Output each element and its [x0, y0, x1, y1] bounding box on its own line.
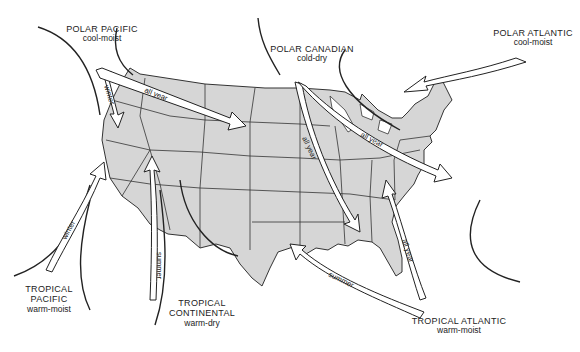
air-mass-desc: warm-dry	[162, 319, 242, 329]
air-mass-desc: cool-moist	[52, 34, 152, 44]
air-mass-desc: warm-moist	[14, 305, 84, 315]
arrow-tropical-pacific-winter	[46, 162, 106, 272]
label-ta-all-year: all year	[400, 238, 416, 264]
air-mass-desc: cold-dry	[262, 54, 362, 64]
arrow-polar-atlantic	[404, 58, 526, 92]
air-mass-desc: cool-moist	[488, 38, 578, 48]
air-mass-desc: warm-moist	[404, 326, 514, 336]
label-polar-pacific: POLAR PACIFIC cool-moist	[52, 24, 152, 44]
arrow-tropical-atlantic-summer	[290, 244, 424, 318]
air-mass-name-1: TROPICAL	[14, 284, 84, 294]
label-polar-canadian: POLAR CANADIAN cold-dry	[262, 44, 362, 64]
label-pp-winter: winter	[102, 83, 117, 106]
label-tropical-pacific: TROPICAL PACIFIC warm-moist	[14, 284, 84, 314]
label-ta-summer: summer	[327, 270, 356, 290]
air-mass-map: winter all year all year all year winter…	[0, 0, 580, 352]
label-tc-summer: summer	[155, 252, 164, 280]
label-tropical-atlantic: TROPICAL ATLANTIC warm-moist	[404, 316, 514, 336]
air-mass-name-1: TROPICAL	[162, 298, 242, 308]
label-tropical-continental: TROPICAL CONTINENTAL warm-dry	[162, 298, 242, 328]
label-polar-atlantic: POLAR ATLANTIC cool-moist	[488, 28, 578, 48]
